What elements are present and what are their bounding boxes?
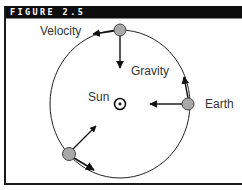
planet-bottom-left <box>63 126 97 170</box>
sun-label: Sun <box>88 90 109 104</box>
velocity-label: Velocity <box>40 24 81 38</box>
planet-top-icon <box>114 24 126 36</box>
orbit-diagram <box>0 0 242 190</box>
earth-label: Earth <box>205 97 234 111</box>
planet-earth-icon <box>182 98 194 110</box>
sun-icon <box>115 99 126 110</box>
gravity-arrow-bottom-left <box>73 126 96 149</box>
gravity-label: Gravity <box>131 64 169 78</box>
planet-bottom-left-icon <box>63 148 76 161</box>
